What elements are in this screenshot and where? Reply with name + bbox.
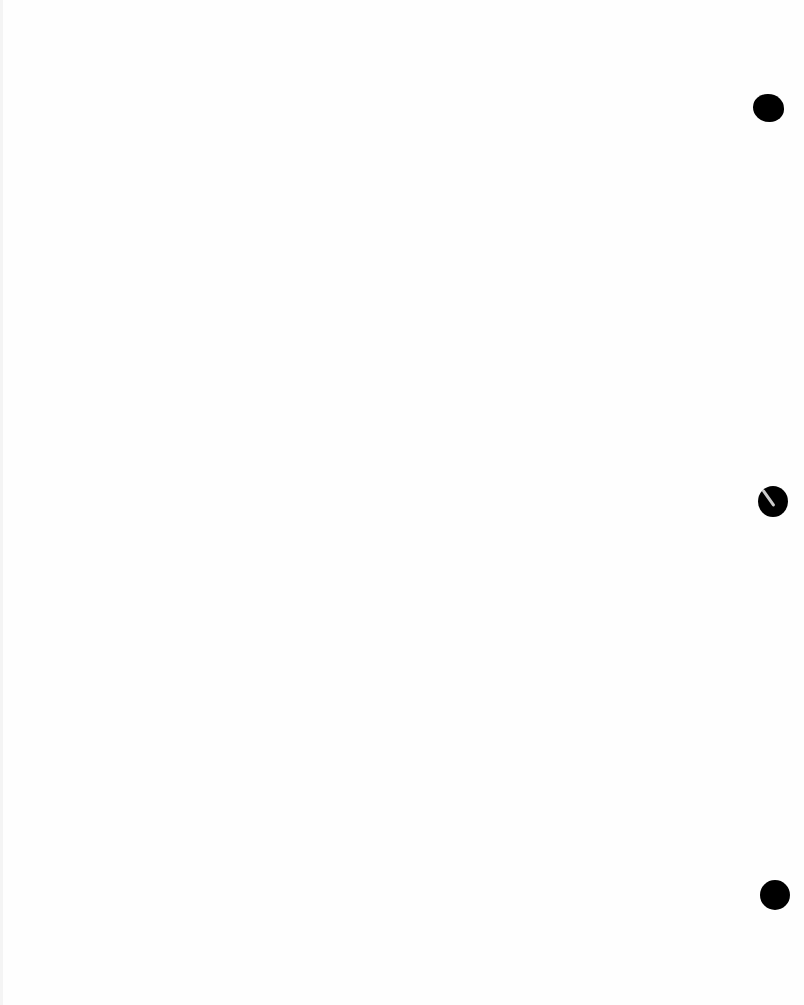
punch-hole-middle-icon (758, 486, 788, 517)
punch-hole-top-icon (753, 94, 784, 122)
punch-hole-bottom-icon (760, 880, 790, 910)
page-left-edge (0, 0, 3, 1005)
blank-page (0, 0, 804, 1005)
